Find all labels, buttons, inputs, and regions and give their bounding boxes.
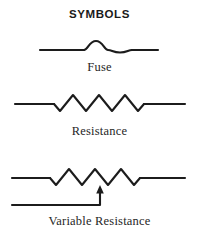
- electrical-symbols-diagram: SYMBOLS Fuse Resistance Variable Resista…: [0, 0, 199, 233]
- fuse-symbol: [40, 41, 158, 53]
- caption-variable-resistance: Variable Resistance: [0, 214, 199, 229]
- fuse-curve: [84, 41, 132, 53]
- resistance-zigzag: [54, 95, 144, 111]
- caption-fuse: Fuse: [0, 60, 199, 75]
- resistance-symbol: [15, 95, 185, 111]
- wiper-arrow-head-icon: [96, 185, 104, 194]
- variable-resistance-zigzag: [50, 169, 140, 185]
- variable-resistance-symbol: [12, 169, 185, 205]
- wiper-lead: [12, 192, 100, 205]
- caption-resistance: Resistance: [0, 124, 199, 139]
- symbols-drawing-canvas: [0, 0, 199, 233]
